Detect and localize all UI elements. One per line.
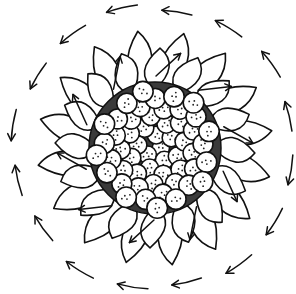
seed-dot (191, 117, 193, 119)
seed-dot (124, 102, 126, 104)
seed-dot (155, 179, 157, 181)
seed-dot (141, 106, 143, 108)
seed-dot (109, 175, 111, 177)
seed-dot (192, 128, 194, 130)
seed-dot (124, 170, 126, 172)
seed-dot (142, 195, 144, 197)
seed-dot (158, 207, 160, 209)
seed-dot (196, 104, 198, 106)
seed-dot (159, 98, 161, 100)
seed-dot (155, 203, 157, 205)
seed-dot (162, 107, 164, 109)
seed-dot (163, 155, 165, 157)
seed-dot (115, 160, 117, 162)
seed-dot (100, 121, 102, 123)
seed-dot (156, 212, 158, 214)
seed-dot (162, 147, 164, 149)
seed-dot (103, 168, 105, 170)
seed-dot (191, 154, 193, 156)
seed-dot (174, 196, 176, 198)
seed-dot (148, 116, 150, 118)
seed-dot (120, 151, 122, 153)
seed-dot (162, 126, 164, 128)
seed-dot (143, 126, 145, 128)
seed-dot (151, 119, 153, 121)
seed-dot (188, 149, 190, 151)
seed-dot (181, 164, 183, 166)
seed-dot (105, 122, 107, 124)
seed-dot (203, 148, 205, 150)
seed-dot (157, 133, 159, 135)
seed-dot (161, 160, 163, 162)
seed-dot (104, 173, 106, 175)
seed-dot (182, 139, 184, 141)
seed-dot (100, 152, 102, 154)
seed-dot (141, 92, 143, 94)
seed-dot (131, 120, 133, 122)
seed-dot (143, 156, 145, 158)
seed-dot (181, 108, 183, 110)
seed-dot (139, 110, 141, 112)
seed-dot (95, 153, 97, 155)
seed (166, 189, 186, 209)
seed-dot (126, 198, 128, 200)
seed-dot (200, 116, 202, 118)
rotation-arrow (215, 21, 241, 37)
seed-dot (146, 197, 148, 199)
seed (199, 121, 219, 141)
seed-dot (204, 143, 206, 145)
seed-dot (206, 131, 208, 133)
seed-dot (138, 146, 140, 148)
seed-dot (171, 200, 173, 202)
rotation-arrow (30, 63, 46, 89)
seed-dot (133, 146, 135, 148)
seed-dot (147, 167, 149, 169)
seed-dot (207, 135, 209, 137)
seed-dot (146, 93, 148, 95)
seed-dot (115, 148, 117, 150)
seed-dot (195, 114, 197, 116)
seed-dot (119, 182, 121, 184)
seed (94, 114, 114, 134)
seed-dot (154, 208, 156, 210)
seed-dot (117, 134, 119, 136)
seed-dot (193, 100, 195, 102)
seed-dot (195, 169, 197, 171)
seed-dot (186, 185, 188, 187)
seed-dot (123, 165, 125, 167)
seed-dot (167, 106, 169, 108)
seed-dot (189, 183, 191, 185)
rotation-arrow (35, 216, 53, 241)
seed-dot (143, 200, 145, 202)
seed (147, 198, 168, 219)
seed-dot (177, 123, 179, 125)
seed-dot (169, 138, 171, 140)
seed-dot (154, 96, 156, 98)
seed-dot (141, 142, 143, 144)
sunflower-illustration (0, 0, 296, 294)
seed-dot (165, 160, 167, 162)
seed-dot (118, 186, 120, 188)
seed-dot (181, 144, 183, 146)
seed (164, 87, 184, 107)
seed-dot (152, 114, 154, 116)
seed-dot (162, 172, 164, 174)
seed-dot (123, 179, 125, 181)
seed (133, 81, 153, 101)
seed-dot (141, 174, 143, 176)
seed-dot (167, 125, 169, 127)
seed-dot (121, 198, 123, 200)
seed-dot (110, 160, 112, 162)
seed-dot (129, 194, 131, 196)
seed-dot (128, 103, 130, 105)
seed-dot (151, 167, 153, 169)
seed-dot (117, 116, 119, 118)
seed-dot (149, 163, 151, 165)
seed-dot (130, 117, 132, 119)
seed-dot (158, 109, 160, 111)
seed-dot (194, 131, 196, 133)
seed-dot (192, 104, 194, 106)
seed-dot (200, 144, 202, 146)
seed-dot (171, 95, 173, 97)
seed-dot (189, 132, 191, 134)
